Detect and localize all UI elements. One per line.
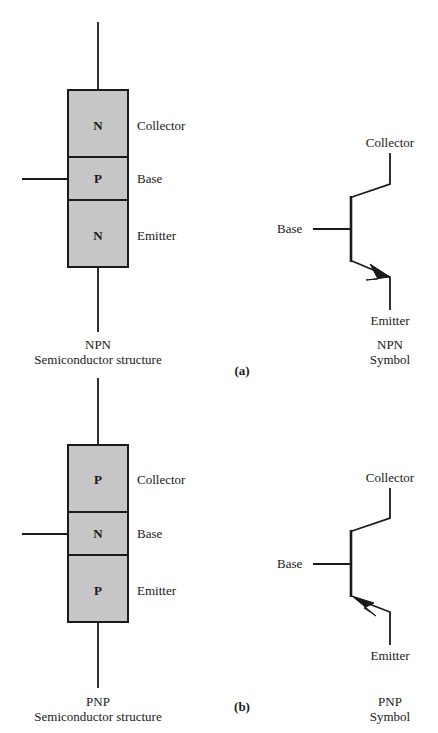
pnp-layer-1-terminal: Base [137,526,162,542]
npn-structure-caption-line1: NPN [85,337,111,353]
pnp-symbol-drawing [313,488,390,645]
npn-symbol-caption-line1: NPN [377,337,403,353]
npn-symbol-emitter-lead [352,261,390,310]
npn-layer-0-terminal: Collector [137,118,185,134]
npn-layer-2-doping: N [93,228,102,244]
npn-symbol-drawing [313,153,390,310]
npn-layer-2-terminal: Emitter [137,228,176,244]
npn-layer-1-doping: P [94,171,102,187]
pnp-structure-caption-line2: Semiconductor structure [34,709,161,725]
npn-layer-1-terminal: Base [137,171,162,187]
npn-symbol-caption-line2: Symbol [370,352,410,368]
panel-tag-b: (b) [234,699,250,715]
pnp-layer-1-doping: N [93,526,102,542]
pnp-symbol-emitter-label: Emitter [371,648,410,664]
pnp-symbol-caption-line1: PNP [378,694,402,710]
npn-symbol-emitter-label: Emitter [371,313,410,329]
pnp-symbol-base-label: Base [277,556,302,572]
npn-layer-0-doping: N [93,118,102,134]
pnp-symbol-collector-lead [352,488,390,531]
npn-symbol-base-label: Base [277,221,302,237]
pnp-layer-2-terminal: Emitter [137,583,176,599]
panel-tag-a: (a) [234,363,249,379]
pnp-layer-0-doping: P [94,472,102,488]
figure-canvas: N Collector P Base N Emitter NPN Semicon… [0,0,438,733]
pnp-symbol-caption-line2: Symbol [370,709,410,725]
npn-structure-caption-line2: Semiconductor structure [34,352,161,368]
pnp-symbol-collector-label: Collector [366,470,414,486]
pnp-symbol-emitter-lead [356,599,390,645]
npn-structure-drawing [22,22,128,332]
npn-symbol-collector-label: Collector [366,135,414,151]
pnp-structure-drawing [22,378,128,688]
npn-symbol-emitter-arrowhead [366,264,390,280]
pnp-layer-0-terminal: Collector [137,472,185,488]
pnp-structure-caption-line1: PNP [86,694,110,710]
npn-symbol-collector-lead [352,153,390,197]
pnp-layer-2-doping: P [94,583,102,599]
